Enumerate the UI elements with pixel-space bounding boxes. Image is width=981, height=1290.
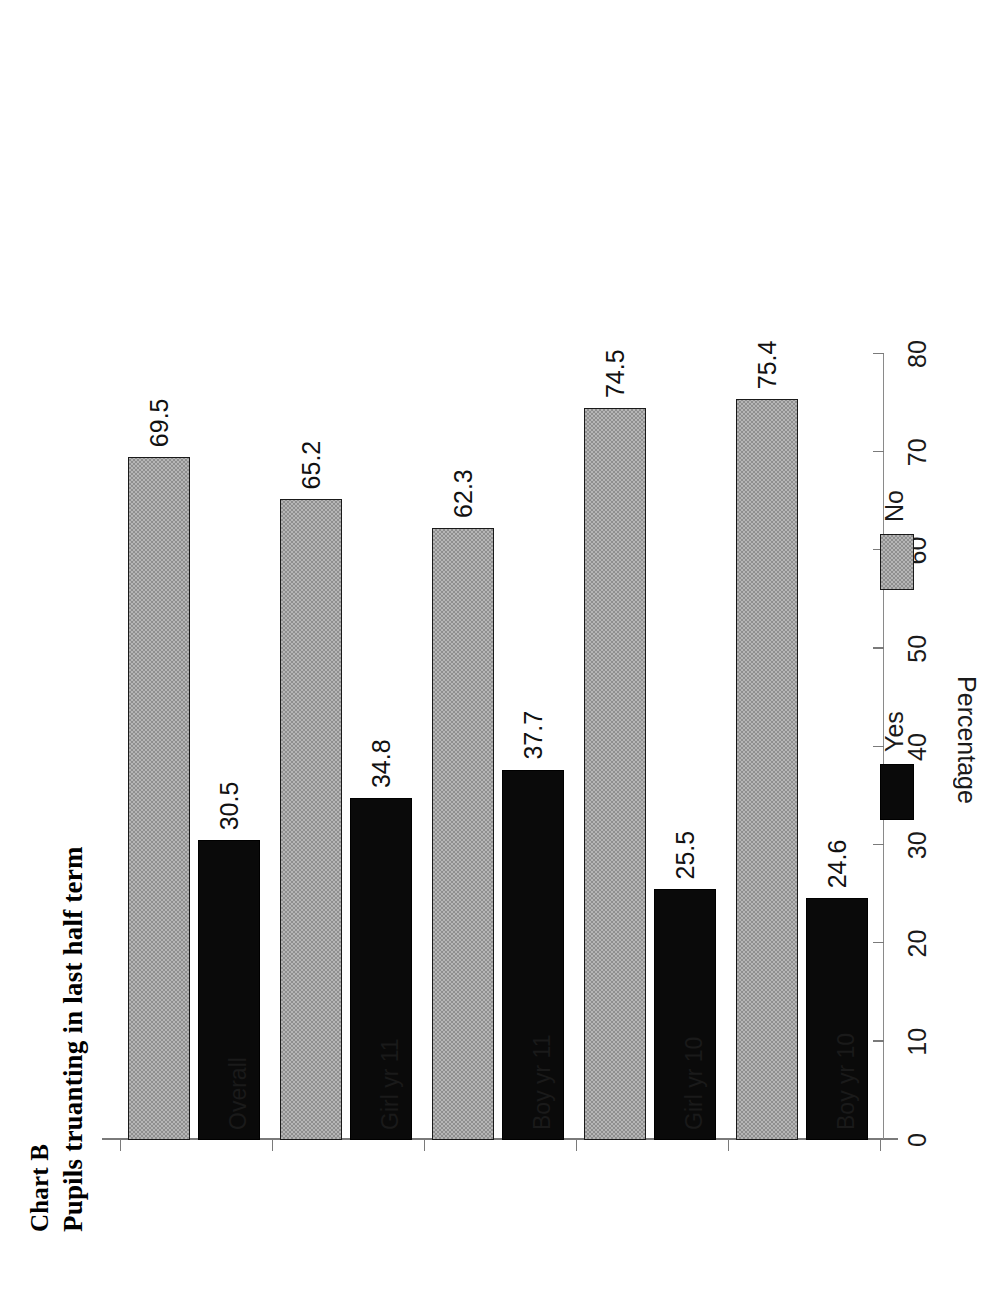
value-tick <box>873 1040 884 1041</box>
bar-no <box>584 408 646 1140</box>
category-tick <box>728 1140 729 1151</box>
value-tick <box>873 353 884 354</box>
bar-value-label: 25.5 <box>671 831 700 880</box>
bar-no <box>128 457 190 1140</box>
value-tick-label: 80 <box>903 340 932 368</box>
value-tick <box>873 844 884 845</box>
legend-swatch-no <box>880 534 914 590</box>
legend-label-no: No <box>880 490 909 522</box>
category-tick <box>120 1140 121 1151</box>
category-label: Overall <box>225 1057 252 1130</box>
bar-no <box>280 499 342 1140</box>
category-tick <box>272 1140 273 1151</box>
value-tick <box>873 647 884 648</box>
value-tick <box>873 1139 884 1140</box>
chart-label: Chart B <box>26 846 54 1232</box>
category-label: Boy yr 11 <box>529 1035 556 1130</box>
category-label: Girl yr 10 <box>681 1037 708 1130</box>
axis-title: Percentage <box>952 340 981 1140</box>
category-tick <box>424 1140 425 1151</box>
bar-value-label: 34.8 <box>367 739 396 788</box>
value-tick <box>873 451 884 452</box>
page-title: Pupils truanting in last half term <box>58 846 89 1232</box>
bar-value-label: 37.7 <box>519 711 548 760</box>
value-tick-label: 20 <box>903 930 932 958</box>
bar-value-label: 75.4 <box>753 341 782 390</box>
value-tick-label: 70 <box>903 438 932 466</box>
title-block: Chart B Pupils truanting in last half te… <box>26 846 89 1232</box>
value-tick-label: 50 <box>903 635 932 663</box>
legend-swatch-yes <box>880 764 914 820</box>
bar-value-label: 74.5 <box>601 349 630 398</box>
category-tick <box>576 1140 577 1151</box>
bar-value-label: 69.5 <box>145 399 174 448</box>
category-label: Girl yr 11 <box>377 1038 404 1130</box>
bar-value-label: 24.6 <box>823 840 852 889</box>
value-tick-label: 0 <box>903 1133 932 1147</box>
legend-label-yes: Yes <box>880 711 909 752</box>
bar-value-label: 65.2 <box>297 441 326 490</box>
category-tick <box>880 1140 881 1151</box>
category-label: Boy yr 10 <box>833 1033 860 1130</box>
value-tick-label: 10 <box>903 1028 932 1056</box>
plot-area: 80706050403020100 75.424.674.525.562.337… <box>120 340 880 1140</box>
bar-value-label: 62.3 <box>449 469 478 518</box>
bar-value-label: 30.5 <box>215 782 244 831</box>
bar-no <box>736 399 798 1140</box>
bar-no <box>432 528 494 1140</box>
value-tick <box>873 942 884 943</box>
value-tick-label: 30 <box>903 831 932 859</box>
